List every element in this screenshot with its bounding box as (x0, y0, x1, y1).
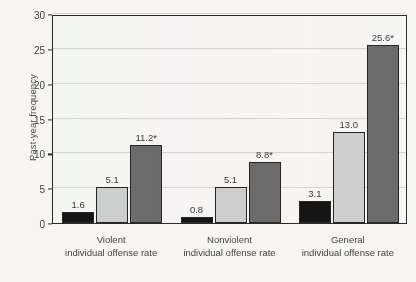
x-axis-group-label-line2: individual offense rate (302, 246, 394, 259)
x-axis-group-label-line1: Violent (65, 233, 157, 246)
bar-value-label: 5.1 (106, 174, 119, 185)
y-axis-tick-mark (48, 223, 52, 224)
x-axis-group-label-line2: individual offense rate (65, 246, 157, 259)
bar-value-label: 8.8* (256, 149, 273, 160)
y-axis-tick-mark (48, 119, 52, 120)
bar (299, 201, 331, 223)
gridline (53, 13, 406, 14)
y-axis-tick-mark (48, 154, 52, 155)
bar (181, 217, 213, 223)
y-axis-tick-label: 20 (0, 79, 45, 90)
bar-value-label: 1.6 (72, 199, 85, 210)
bar (249, 162, 281, 223)
bar (333, 132, 365, 223)
y-axis-tick-label: 0 (0, 219, 45, 230)
gridline (53, 48, 406, 49)
x-axis-group-label: Violentindividual offense rate (65, 233, 157, 259)
y-axis-tick-label: 25 (0, 44, 45, 55)
y-axis-tick-label: 15 (0, 114, 45, 125)
gridline (53, 83, 406, 84)
y-axis-tick-mark (48, 49, 52, 50)
bar-value-label: 3.1 (308, 188, 321, 199)
bar-value-label: 11.2* (135, 132, 156, 143)
bar (215, 187, 247, 223)
bar (367, 45, 399, 223)
gridline (53, 118, 406, 119)
bar-value-label: 13.0 (340, 119, 359, 130)
bar-chart-figure: Past-year frequency 1.65.111.2*0.85.18.8… (0, 0, 416, 282)
y-axis-tick-label: 5 (0, 184, 45, 195)
x-axis-group-label-line1: General (302, 233, 394, 246)
x-axis-group-label-line2: individual offense rate (183, 246, 275, 259)
bar (130, 145, 162, 223)
x-axis-group-label: Generalindividual offense rate (302, 233, 394, 259)
bar-value-label: 5.1 (224, 174, 237, 185)
x-axis-group-label: Nonviolentindividual offense rate (183, 233, 275, 259)
y-axis-tick-mark (48, 14, 52, 15)
plot-area: 1.65.111.2*0.85.18.8*3.113.025.6* (52, 15, 407, 224)
bar-value-label: 0.8 (190, 204, 203, 215)
y-axis-tick-mark (48, 189, 52, 190)
x-axis-group-label-line1: Nonviolent (183, 233, 275, 246)
y-axis-tick-label: 10 (0, 149, 45, 160)
y-axis-tick-mark (48, 84, 52, 85)
y-axis-tick-label: 30 (0, 10, 45, 21)
bar (62, 212, 94, 223)
bar (96, 187, 128, 223)
bar-value-label: 25.6* (372, 32, 394, 43)
